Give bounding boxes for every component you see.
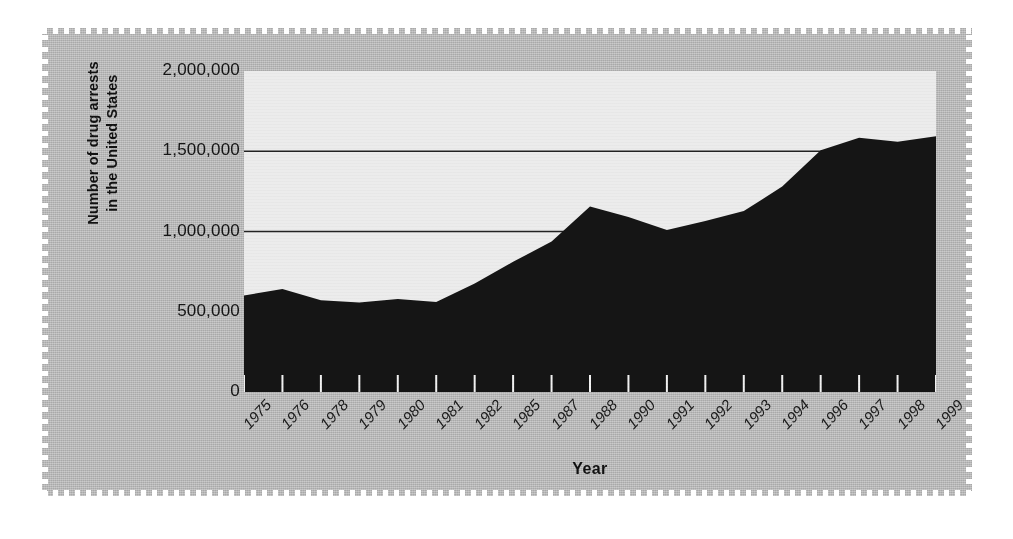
x-axis-tick-label: 1998	[893, 396, 928, 432]
x-axis-tick-label: 1979	[355, 396, 390, 432]
x-axis-tick-label: 1994	[777, 396, 812, 432]
plot-area	[244, 71, 936, 392]
x-axis-tick-label: 1975	[239, 396, 274, 432]
x-axis-tick-label: 1981	[431, 396, 466, 432]
x-axis-tick-label: 1999	[931, 396, 966, 432]
y-axis-tick-labels: 2,000,0001,500,0001,000,000500,0000	[80, 28, 240, 496]
x-axis-tick-label: 1980	[393, 396, 428, 432]
x-axis-tick-label: 1996	[816, 396, 851, 432]
scanned-page-card: Number of drug arrests in the United Sta…	[42, 28, 972, 496]
area-chart-svg	[244, 71, 936, 392]
x-axis-title: Year	[244, 460, 936, 478]
x-axis-tick-label: 1976	[278, 396, 313, 432]
y-axis-tick-label: 1,500,000	[80, 140, 240, 160]
x-axis-tick-label: 1978	[316, 396, 351, 432]
y-axis-tick-label: 2,000,000	[80, 60, 240, 80]
y-axis-tick-label: 500,000	[80, 301, 240, 321]
x-axis-tick-label: 1987	[547, 396, 582, 432]
x-axis-tick-label: 1991	[662, 396, 697, 432]
x-axis-tick-label: 1982	[470, 396, 505, 432]
x-axis-tick-label: 1992	[701, 396, 736, 432]
x-axis-tick-label: 1997	[854, 396, 889, 432]
x-axis-tick-label: 1988	[585, 396, 620, 432]
x-axis-tick-labels: 1975197619781979198019811982198519871988…	[244, 396, 936, 466]
y-axis-tick-label: 0	[80, 381, 240, 401]
chart-figure: Number of drug arrests in the United Sta…	[42, 28, 972, 496]
x-axis-tick-label: 1985	[508, 396, 543, 432]
x-axis-tick-label: 1993	[739, 396, 774, 432]
y-axis-tick-label: 1,000,000	[80, 221, 240, 241]
area-series-drug-arrests	[244, 136, 936, 392]
x-axis-tick-label: 1990	[624, 396, 659, 432]
